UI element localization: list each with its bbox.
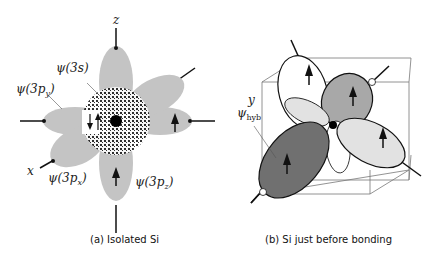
panel-b-si-before-bonding: ψhyb (b) Si just before bonding bbox=[237, 40, 421, 245]
nucleus bbox=[110, 115, 122, 127]
label-x: x bbox=[27, 164, 34, 178]
caption-b: (b) Si just before bonding bbox=[265, 234, 392, 245]
diagram-canvas: z x y ψ(3s) ψ(3py) ψ(3px) ψ(3pz) (a) Iso… bbox=[0, 0, 436, 259]
label-z-axis: z bbox=[112, 13, 120, 27]
panel-a-isolated-si: z x y ψ(3s) ψ(3py) ψ(3px) ψ(3pz) (a) Iso… bbox=[16, 13, 255, 245]
label-psi-hyb: ψhyb bbox=[237, 106, 261, 122]
spin-pair-box bbox=[82, 110, 100, 134]
label-psi-3py: ψ(3py) bbox=[16, 82, 55, 98]
label-psi-3s: ψ(3s) bbox=[56, 61, 89, 75]
caption-a: (a) Isolated Si bbox=[90, 234, 159, 245]
label-psi-3pz: ψ(3pz) bbox=[135, 175, 174, 191]
label-y: y bbox=[247, 93, 255, 107]
label-psi-3px: ψ(3px) bbox=[48, 171, 87, 187]
nucleus-b bbox=[329, 121, 337, 129]
